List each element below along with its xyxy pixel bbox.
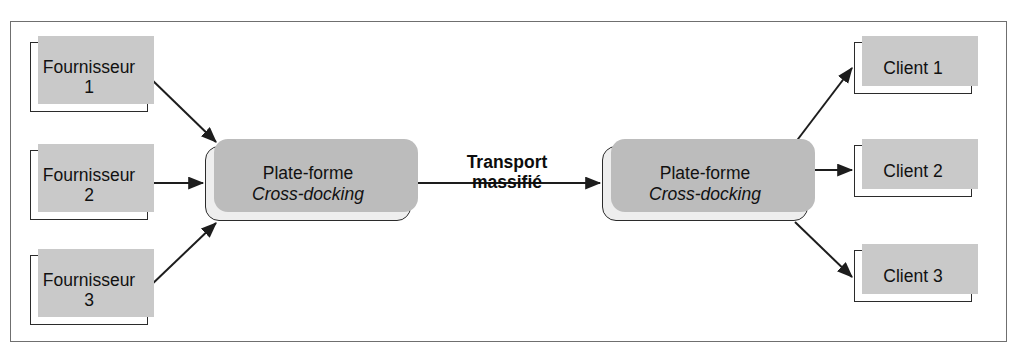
- node-client-2-label: Client 2: [883, 161, 942, 181]
- node-plateforme-1-line2: Cross-docking: [252, 184, 364, 204]
- node-fournisseur-2-label: Fournisseur 2: [43, 165, 135, 206]
- node-client-3-label: Client 3: [883, 266, 942, 286]
- node-client-3[interactable]: Client 3: [854, 250, 972, 302]
- node-fournisseur-3-line2: 3: [84, 290, 94, 310]
- node-fournisseur-1[interactable]: Fournisseur 1: [30, 42, 148, 112]
- node-plateforme-cross-docking-2[interactable]: Plate-forme Cross-docking: [602, 146, 808, 221]
- node-plateforme-2-line2: Cross-docking: [649, 184, 761, 204]
- node-fournisseur-2-line1: Fournisseur: [43, 165, 135, 185]
- node-plateforme-2-line1: Plate-forme: [660, 163, 750, 183]
- node-fournisseur-1-line2: 1: [84, 77, 94, 97]
- node-client-1[interactable]: Client 1: [854, 42, 972, 94]
- diagram-canvas: Fournisseur 1 Fournisseur 2 Fournisseur …: [0, 0, 1022, 358]
- node-client-1-label: Client 1: [883, 58, 942, 78]
- node-fournisseur-1-line1: Fournisseur: [43, 57, 135, 77]
- node-fournisseur-3-line1: Fournisseur: [43, 270, 135, 290]
- node-plateforme-cross-docking-1[interactable]: Plate-forme Cross-docking: [205, 146, 411, 221]
- node-fournisseur-3[interactable]: Fournisseur 3: [30, 255, 148, 325]
- node-plateforme-1-label: Plate-forme Cross-docking: [252, 163, 364, 204]
- node-fournisseur-2[interactable]: Fournisseur 2: [30, 150, 148, 220]
- node-fournisseur-3-label: Fournisseur 3: [43, 270, 135, 311]
- node-plateforme-1-line1: Plate-forme: [263, 163, 353, 183]
- node-fournisseur-2-line2: 2: [84, 185, 94, 205]
- node-fournisseur-1-label: Fournisseur 1: [43, 57, 135, 98]
- node-plateforme-2-label: Plate-forme Cross-docking: [649, 163, 761, 204]
- page-top-cut-text: [0, 0, 1022, 12]
- node-client-2[interactable]: Client 2: [854, 145, 972, 197]
